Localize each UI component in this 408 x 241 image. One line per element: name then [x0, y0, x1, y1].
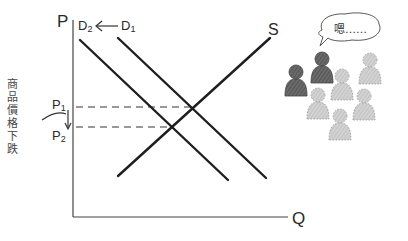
speech-bubble-text: 嗯……	[334, 20, 367, 36]
p1-subscript: 1	[61, 103, 66, 113]
d1-letter: D	[121, 18, 130, 33]
x-axis-label: Q	[292, 209, 305, 229]
p1-letter: P	[52, 97, 61, 112]
supply-demand-diagram	[0, 0, 408, 241]
shift-left-arrow	[96, 21, 118, 31]
p1-label: P1	[52, 97, 66, 113]
d2-letter: D	[78, 18, 87, 33]
dark-person	[285, 65, 307, 96]
price-fall-note: 商品價格下跌	[5, 78, 19, 156]
d2-subscript: 2	[87, 24, 92, 34]
d1-subscript: 1	[130, 24, 135, 34]
crowd-icon	[285, 52, 381, 140]
p2-letter: P	[52, 128, 61, 143]
y-axis-label: P	[57, 12, 68, 32]
p2-subscript: 2	[61, 134, 66, 144]
s-label: S	[268, 21, 279, 39]
dark-person	[311, 52, 333, 83]
d2-label: D2	[78, 18, 92, 34]
p2-label: P2	[52, 128, 66, 144]
demand-curve-d2	[80, 40, 228, 180]
d1-label: D1	[121, 18, 135, 34]
